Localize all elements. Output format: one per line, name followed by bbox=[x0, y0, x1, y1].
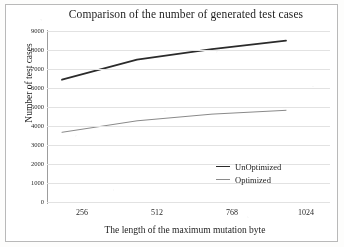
gridline-3000 bbox=[47, 145, 330, 146]
legend-label-optimized: Optimized bbox=[235, 175, 271, 185]
line-optimized bbox=[62, 110, 286, 132]
x-tick-256: 256 bbox=[52, 208, 112, 217]
y-tick-1000: 1000 bbox=[14, 180, 44, 187]
gridline-2000 bbox=[47, 164, 330, 165]
legend-line-icon-optimized bbox=[216, 179, 230, 180]
series-plot bbox=[47, 31, 330, 203]
gridline-9000 bbox=[47, 31, 330, 32]
line-unoptimized bbox=[62, 41, 286, 80]
gridline-7000 bbox=[47, 69, 330, 70]
gridline-4000 bbox=[47, 126, 330, 127]
gridline-6000 bbox=[47, 88, 330, 89]
x-tick-1024: 1024 bbox=[276, 208, 336, 217]
x-tick-768: 768 bbox=[202, 208, 262, 217]
chart-title: Comparison of the number of generated te… bbox=[36, 8, 336, 20]
y-tick-2000: 2000 bbox=[14, 161, 44, 168]
gridline-5000 bbox=[47, 107, 330, 108]
y-tick-3000: 3000 bbox=[14, 142, 44, 149]
legend-item-unoptimized: UnOptimized bbox=[216, 160, 281, 173]
legend-line-icon-unoptimized bbox=[216, 166, 230, 167]
chart-figure: Comparison of the number of generated te… bbox=[0, 0, 344, 247]
chart-legend: UnOptimized Optimized bbox=[216, 160, 281, 186]
y-tick-0: 0 bbox=[14, 199, 44, 206]
x-tick-512: 512 bbox=[127, 208, 187, 217]
gridline-1000 bbox=[47, 183, 330, 184]
x-axis-label: The length of the maximum mutation byte bbox=[40, 225, 330, 235]
y-axis-label: Number of test cases bbox=[24, 28, 34, 138]
legend-item-optimized: Optimized bbox=[216, 173, 281, 186]
gridline-0 bbox=[47, 202, 330, 203]
legend-label-unoptimized: UnOptimized bbox=[235, 162, 281, 172]
x-axis-tick-labels: 256 512 768 1024 bbox=[47, 208, 330, 222]
gridline-8000 bbox=[47, 50, 330, 51]
plot-area bbox=[47, 31, 330, 203]
